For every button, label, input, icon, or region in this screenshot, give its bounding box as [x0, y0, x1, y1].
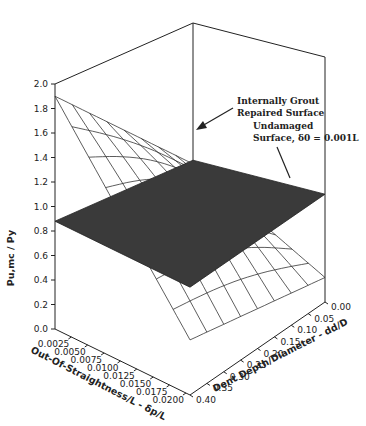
svg-text:1.8: 1.8: [34, 104, 49, 114]
svg-text:0.00: 0.00: [331, 302, 351, 312]
z-axis-label: Pu,mc / Py: [5, 229, 16, 286]
surface-plot: 0.00.20.40.60.81.01.21.41.61.82.0 0.0025…: [0, 0, 366, 426]
arrow-grout: [196, 108, 233, 130]
svg-text:0.8: 0.8: [34, 226, 49, 236]
pointer-undamaged: [277, 147, 290, 178]
svg-text:0.2: 0.2: [34, 300, 48, 310]
svg-text:0.40: 0.40: [196, 395, 216, 405]
annotation-grout-line2: Repaired Surface: [237, 108, 325, 118]
svg-text:0.0: 0.0: [34, 324, 49, 334]
svg-text:1.6: 1.6: [34, 128, 49, 138]
svg-text:1.2: 1.2: [34, 177, 48, 187]
annotation-undamaged-line1: Undamaged: [253, 121, 314, 131]
y-axis-label: Dent Depth/Diameter - dd/D: [211, 316, 350, 394]
annotation-grout-line1: Internally Grout: [237, 96, 320, 106]
annotation-undamaged-line2: Surface, δ0 = 0.001L: [253, 133, 359, 144]
svg-text:2.0: 2.0: [34, 79, 49, 89]
z-axis-ticks: 0.00.20.40.60.81.01.21.41.61.82.0: [34, 79, 55, 334]
svg-text:0.0200: 0.0200: [152, 395, 184, 405]
svg-text:0.6: 0.6: [34, 251, 49, 261]
svg-text:0.4: 0.4: [34, 275, 49, 285]
svg-text:1.0: 1.0: [34, 202, 49, 212]
svg-text:1.4: 1.4: [34, 153, 49, 163]
